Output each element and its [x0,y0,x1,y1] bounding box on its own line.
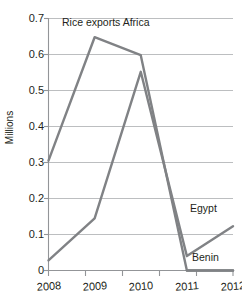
x-tick-label: 2012 [213,279,242,294]
x-tick-label: 2010 [120,279,161,294]
x-tick-label: 2008 [28,279,69,294]
series-label-rice-exports-africa: Rice exports Africa [62,16,150,28]
line-chart: Millions 00.10.20.30.40.50.60.7 20082009… [0,0,242,303]
series-label-benin: Benin [192,251,219,263]
x-tick-label: 2009 [74,279,115,294]
x-tick-label: 2011 [167,279,208,294]
series-label-egypt: Egypt [190,202,217,214]
